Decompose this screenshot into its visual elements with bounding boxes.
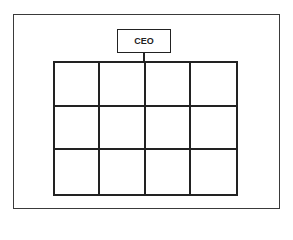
grid-cell-r1-c3 <box>146 63 191 107</box>
grid-cell-r3-c2 <box>100 150 145 194</box>
ceo-label: CEO <box>134 36 154 46</box>
grid-cell-r3-c3 <box>146 150 191 194</box>
grid-cell-r3-c1 <box>55 150 100 194</box>
grid-cell-r1-c4 <box>191 63 236 107</box>
ceo-node: CEO <box>117 29 171 53</box>
grid-cell-r2-c3 <box>146 107 191 151</box>
grid-cell-r1-c2 <box>100 63 145 107</box>
grid-cell-r1-c1 <box>55 63 100 107</box>
grid-cell-r2-c4 <box>191 107 236 151</box>
grid-cell-r2-c1 <box>55 107 100 151</box>
grid-cell-r3-c4 <box>191 150 236 194</box>
matrix-grid <box>53 61 238 196</box>
grid-cell-r2-c2 <box>100 107 145 151</box>
